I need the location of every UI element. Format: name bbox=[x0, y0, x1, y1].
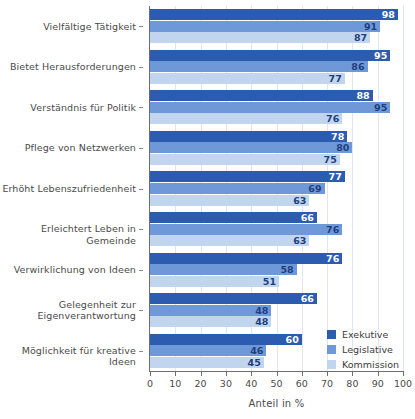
category-axis: Vielfältige TätigkeitBietet Herausforder… bbox=[0, 0, 143, 371]
bar: 45 bbox=[150, 357, 264, 368]
legend-label: Kommission bbox=[342, 359, 399, 370]
bar-value-label: 76 bbox=[326, 253, 339, 264]
category-label: Gelegenheit zurEigenverantwortung bbox=[0, 299, 136, 322]
bar-value-label: 76 bbox=[326, 224, 339, 235]
category-tick bbox=[139, 310, 143, 311]
x-tick bbox=[403, 372, 404, 376]
bar-value-label: 98 bbox=[382, 9, 395, 20]
bar-value-label: 77 bbox=[329, 73, 342, 84]
bar-value-label: 58 bbox=[281, 264, 294, 275]
bar: 95 bbox=[150, 102, 390, 113]
x-tick bbox=[175, 372, 176, 376]
category-label: Erleichtert Leben in Gemeinde bbox=[0, 223, 136, 246]
bar-value-label: 51 bbox=[263, 276, 276, 287]
category-label: Möglichkeit für kreative Ideen bbox=[0, 345, 136, 368]
bar: 66 bbox=[150, 212, 317, 223]
bar-value-label: 66 bbox=[301, 293, 314, 304]
x-tick bbox=[150, 372, 151, 376]
bar: 51 bbox=[150, 276, 279, 287]
bar: 88 bbox=[150, 90, 373, 101]
category-label: Erhöht Lebenszufriedenheit bbox=[0, 183, 136, 195]
x-tick-label: 100 bbox=[388, 378, 415, 389]
category-label: Vielfältige Tätigkeit bbox=[0, 21, 136, 33]
bar-value-label: 60 bbox=[286, 334, 299, 345]
legend-label: Legislative bbox=[342, 344, 393, 355]
category-label: Verständnis für Politik bbox=[0, 102, 136, 114]
horizontal-bar-chart: Vielfältige TätigkeitBietet Herausforder… bbox=[0, 0, 415, 419]
legend-swatch-icon bbox=[327, 360, 336, 369]
bar-value-label: 63 bbox=[293, 235, 306, 246]
bar: 76 bbox=[150, 224, 342, 235]
bar: 69 bbox=[150, 183, 325, 194]
category-label-line: Erleichtert Leben in Gemeinde bbox=[0, 223, 136, 246]
bar-value-label: 48 bbox=[255, 305, 268, 316]
category-label-line: Gelegenheit zur bbox=[0, 299, 136, 311]
bar: 87 bbox=[150, 32, 370, 43]
category-label-line: Vielfältige Tätigkeit bbox=[0, 21, 136, 33]
category-label-line: Eigenverantwortung bbox=[0, 310, 136, 322]
x-tick bbox=[302, 372, 303, 376]
bar-value-label: 66 bbox=[301, 212, 314, 223]
bar: 80 bbox=[150, 142, 352, 153]
bar-value-label: 87 bbox=[354, 32, 367, 43]
category-label: Pflege von Netzwerken bbox=[0, 142, 136, 154]
bar-value-label: 80 bbox=[336, 142, 349, 153]
category-label-line: Möglichkeit für kreative Ideen bbox=[0, 345, 136, 368]
category-tick bbox=[139, 229, 143, 230]
bar-value-label: 46 bbox=[250, 345, 263, 356]
bar: 48 bbox=[150, 305, 271, 316]
x-tick bbox=[378, 372, 379, 376]
bar-value-label: 77 bbox=[329, 171, 342, 182]
bar: 46 bbox=[150, 345, 266, 356]
bar-value-label: 95 bbox=[374, 102, 387, 113]
category-label: Verwirklichung von Ideen bbox=[0, 264, 136, 276]
legend-item[interactable]: Legislative bbox=[327, 342, 399, 357]
x-tick bbox=[277, 372, 278, 376]
bar: 58 bbox=[150, 264, 297, 275]
plot-area: 0102030405060708090100989187958677889576… bbox=[150, 6, 403, 371]
bar-value-label: 78 bbox=[331, 131, 344, 142]
x-tick bbox=[226, 372, 227, 376]
x-tick bbox=[251, 372, 252, 376]
bar-value-label: 75 bbox=[324, 154, 337, 165]
bar-value-label: 86 bbox=[351, 61, 364, 72]
bar: 76 bbox=[150, 113, 342, 124]
bar-value-label: 69 bbox=[308, 183, 321, 194]
category-label-line: Verwirklichung von Ideen bbox=[0, 264, 136, 276]
bar: 63 bbox=[150, 195, 309, 206]
bar: 86 bbox=[150, 61, 368, 72]
bar-value-label: 76 bbox=[326, 113, 339, 124]
category-tick bbox=[139, 148, 143, 149]
legend-item[interactable]: Exekutive bbox=[327, 327, 399, 342]
legend-label: Exekutive bbox=[342, 329, 388, 340]
category-label-line: Bietet Herausforderungen bbox=[0, 61, 136, 73]
bar-value-label: 48 bbox=[255, 316, 268, 327]
category-label-line: Erhöht Lebenszufriedenheit bbox=[0, 183, 136, 195]
category-tick bbox=[139, 107, 143, 108]
legend-swatch-icon bbox=[327, 345, 336, 354]
legend-item[interactable]: Kommission bbox=[327, 357, 399, 372]
bar-value-label: 45 bbox=[248, 357, 261, 368]
chart-legend: ExekutiveLegislativeKommission bbox=[327, 327, 399, 372]
x-tick bbox=[327, 372, 328, 376]
bar-value-label: 88 bbox=[356, 90, 369, 101]
x-tick bbox=[201, 372, 202, 376]
category-label-line: Verständnis für Politik bbox=[0, 102, 136, 114]
bar-value-label: 63 bbox=[293, 195, 306, 206]
bar-value-label: 91 bbox=[364, 21, 377, 32]
category-tick bbox=[139, 67, 143, 68]
category-tick bbox=[139, 351, 143, 352]
bar-value-label: 95 bbox=[374, 50, 387, 61]
bar: 66 bbox=[150, 293, 317, 304]
bar: 48 bbox=[150, 316, 271, 327]
x-gridline bbox=[403, 6, 404, 371]
bar: 91 bbox=[150, 21, 380, 32]
category-label: Bietet Herausforderungen bbox=[0, 61, 136, 73]
bar: 77 bbox=[150, 73, 345, 84]
bar: 77 bbox=[150, 171, 345, 182]
category-tick bbox=[139, 26, 143, 27]
x-axis-title: Anteil in % bbox=[150, 398, 403, 409]
category-tick bbox=[139, 270, 143, 271]
legend-swatch-icon bbox=[327, 330, 336, 339]
bar: 75 bbox=[150, 154, 340, 165]
